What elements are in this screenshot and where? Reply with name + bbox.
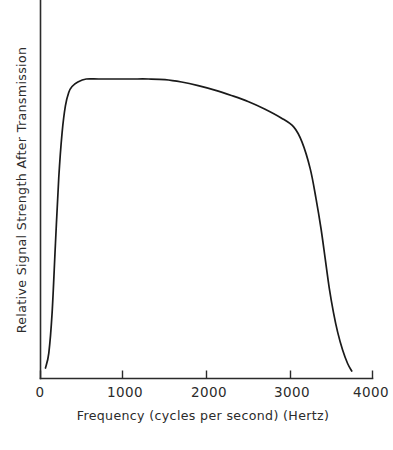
transmission-response-chart: 0 1000 2000 3000 4000 Frequency (cycles … — [0, 0, 393, 450]
chart-figure: 0 1000 2000 3000 4000 Frequency (cycles … — [0, 0, 393, 450]
chart-background — [0, 0, 393, 450]
x-tick-label-1000: 1000 — [107, 384, 143, 400]
x-tick-label-2000: 2000 — [191, 384, 227, 400]
x-tick-label-0: 0 — [36, 384, 45, 400]
x-tick-label-4000: 4000 — [353, 384, 389, 400]
x-tick-label-3000: 3000 — [274, 384, 310, 400]
x-axis-title: Frequency (cycles per second) (Hertz) — [77, 408, 330, 423]
y-axis-title: Relative Signal Strength After Transmiss… — [14, 47, 29, 334]
